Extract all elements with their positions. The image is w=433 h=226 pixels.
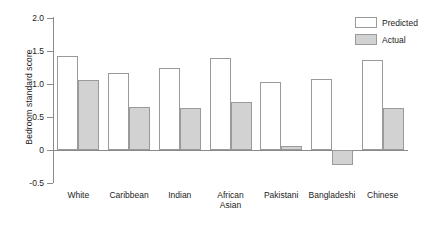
- y-tick-mark: [47, 183, 53, 184]
- bar-predicted-caribbean: [108, 73, 129, 150]
- legend-swatch-predicted-icon: [355, 17, 377, 28]
- bar-actual-white: [78, 80, 99, 150]
- y-axis-line: [53, 17, 54, 183]
- zero-baseline: [53, 150, 408, 151]
- bar-predicted-african-asian: [210, 58, 231, 150]
- bar-actual-chinese: [383, 108, 404, 150]
- bar-actual-bangladeshi: [332, 150, 353, 165]
- legend-item-predicted: Predicted: [355, 17, 418, 28]
- y-tick-mark: [47, 51, 53, 52]
- y-tick-mark: [47, 18, 53, 19]
- legend-item-actual: Actual: [355, 34, 418, 45]
- bar-predicted-indian: [159, 68, 180, 151]
- legend-label-predicted: Predicted: [382, 18, 418, 28]
- y-tick-mark: [47, 150, 53, 151]
- bar-predicted-pakistani: [260, 82, 281, 150]
- legend-swatch-actual-icon: [355, 34, 377, 45]
- y-tick-mark: [47, 117, 53, 118]
- x-axis-label: Chinese: [338, 190, 428, 200]
- y-tick-label: 2.0: [4, 13, 44, 23]
- y-tick-mark: [47, 84, 53, 85]
- legend-label-actual: Actual: [382, 35, 406, 45]
- bar-actual-pakistani: [281, 146, 302, 150]
- bar-predicted-bangladeshi: [311, 79, 332, 150]
- bar-predicted-chinese: [362, 60, 383, 150]
- bar-actual-caribbean: [129, 107, 150, 150]
- y-tick-label: 0: [4, 145, 44, 155]
- bar-chart: Bedroom standard score 2.01.51.00.50-0.5…: [0, 0, 433, 226]
- bar-actual-indian: [180, 108, 201, 150]
- bar-predicted-white: [57, 56, 78, 150]
- y-tick-label: 1.5: [4, 46, 44, 56]
- y-tick-label: -0.5: [4, 178, 44, 188]
- legend: Predicted Actual: [355, 17, 418, 51]
- y-tick-label: 0.5: [4, 112, 44, 122]
- bar-actual-african-asian: [231, 102, 252, 150]
- y-tick-label: 1.0: [4, 79, 44, 89]
